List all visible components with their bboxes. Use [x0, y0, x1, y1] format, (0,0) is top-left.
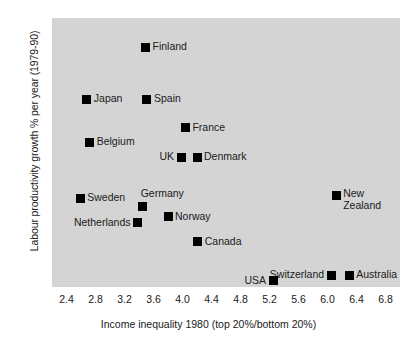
square-marker-icon: [76, 194, 85, 203]
square-marker-icon: [141, 43, 150, 52]
data-point-label: Denmark: [204, 151, 247, 163]
data-point-label: Japan: [94, 93, 123, 105]
data-point-label: Sweden: [87, 192, 125, 204]
square-marker-icon: [327, 271, 336, 280]
data-point-label: Australia: [356, 269, 397, 281]
data-point-label: Spain: [154, 93, 181, 105]
square-marker-icon: [345, 271, 354, 280]
square-marker-icon: [164, 212, 173, 221]
x-tick-label: 6.8: [366, 293, 406, 305]
x-axis-title: Income inequality 1980 (top 20%/bottom 2…: [0, 318, 417, 330]
data-point-label: Norway: [175, 211, 211, 223]
data-point-label: Switzerland: [270, 269, 324, 281]
scatter-plot-figure: Labour productivity growth % per year (1…: [0, 0, 417, 342]
square-marker-icon: [269, 276, 278, 285]
data-point-label: France: [192, 122, 225, 134]
square-marker-icon: [181, 123, 190, 132]
plot-area: FinlandJapanSpainFranceBelgiumUKDenmarkS…: [52, 18, 400, 287]
square-marker-icon: [177, 153, 186, 162]
data-point-label: Finland: [153, 41, 187, 53]
square-marker-icon: [82, 95, 91, 104]
data-point-label: Belgium: [97, 136, 135, 148]
y-axis-title: Labour productivity growth % per year (1…: [28, 11, 40, 271]
square-marker-icon: [138, 202, 147, 211]
data-point-label: Netherlands: [74, 217, 131, 229]
data-point-label: USA: [245, 275, 267, 287]
square-marker-icon: [142, 95, 151, 104]
data-point-label: Canada: [205, 236, 242, 248]
square-marker-icon: [133, 218, 142, 227]
square-marker-icon: [193, 153, 202, 162]
data-point-label: Germany: [141, 188, 184, 200]
square-marker-icon: [85, 138, 94, 147]
square-marker-icon: [193, 237, 202, 246]
square-marker-icon: [332, 191, 341, 200]
data-point-label: UK: [159, 151, 174, 163]
data-point-label: New Zealand: [343, 188, 381, 211]
